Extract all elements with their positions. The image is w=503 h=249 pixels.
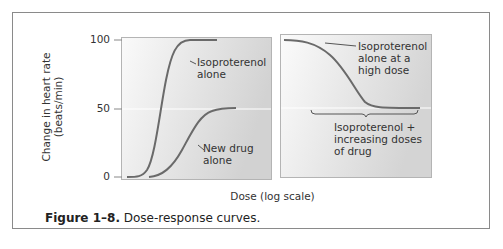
annotation-line: Isoproterenol bbox=[197, 56, 266, 68]
annotation-isoproterenol-alone: Isoproterenol alone bbox=[197, 56, 266, 80]
figure-label: Figure 1–8. bbox=[45, 211, 120, 225]
figure-caption-text: Dose-response curves. bbox=[120, 211, 260, 225]
annotation-line: of drug bbox=[334, 145, 422, 157]
annotation-line: high dose bbox=[358, 64, 427, 76]
x-axis-label: Dose (log scale) bbox=[0, 190, 503, 202]
annotation-line: alone bbox=[197, 68, 266, 80]
annotation-isoproterenol-high-dose: Isoproterenol alone at a high dose bbox=[358, 40, 427, 76]
annotation-line: increasing doses bbox=[334, 133, 422, 145]
annotation-new-drug-alone: New drug alone bbox=[203, 142, 254, 166]
annotation-line: alone at a bbox=[358, 52, 427, 64]
annotation-line: Isoproterenol + bbox=[334, 121, 422, 133]
annotation-line: alone bbox=[203, 154, 254, 166]
annotation-isoproterenol-plus-drug: Isoproterenol + increasing doses of drug bbox=[334, 121, 422, 157]
annotation-line: New drug bbox=[203, 142, 254, 154]
figure-caption: Figure 1–8. Dose-response curves. bbox=[45, 211, 260, 225]
annotation-line: Isoproterenol bbox=[358, 40, 427, 52]
